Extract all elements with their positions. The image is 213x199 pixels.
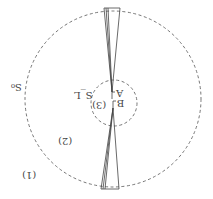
label-region-2: (2) <box>58 136 72 146</box>
outer-circle-s0 <box>25 11 201 187</box>
label-region-1: (1) <box>22 170 36 180</box>
label-sl: S_L <box>74 90 93 100</box>
label-point-b: B <box>117 98 124 108</box>
upper-wedge <box>104 8 120 92</box>
label-point-a: A <box>116 88 123 98</box>
label-region-3: (3) <box>92 100 106 110</box>
label-s0: S₀ <box>11 82 22 92</box>
lower-wedge <box>101 108 119 189</box>
